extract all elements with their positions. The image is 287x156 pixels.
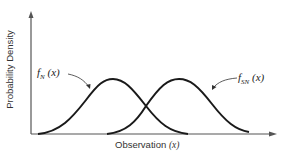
x-axis-label-var: (x) <box>169 140 180 150</box>
curve-fsn <box>107 79 249 134</box>
fn-leader-arrow-icon <box>86 84 91 89</box>
fn-label: fN (x) <box>37 66 60 81</box>
x-axis-label: Observation (x) <box>115 139 179 150</box>
curve-fn <box>38 79 188 134</box>
y-axis-label: Probability Density <box>4 30 15 110</box>
fsn-leader-arrow-icon <box>212 85 217 90</box>
fsn-label: fSN (x) <box>238 71 264 86</box>
x-axis-arrow-icon <box>269 132 277 137</box>
fn-leader-line <box>68 74 89 87</box>
y-axis-arrow-icon <box>29 11 34 18</box>
fsn-leader-line <box>213 78 237 88</box>
x-axis-label-text: Observation <box>115 139 169 150</box>
